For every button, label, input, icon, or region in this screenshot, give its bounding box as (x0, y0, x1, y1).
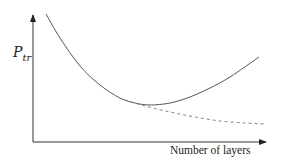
y-axis-label: Ptr (13, 44, 31, 63)
x-axis-label: Number of layers (170, 144, 250, 156)
y-axis-label-main: P (13, 44, 22, 60)
chart-canvas (0, 0, 281, 164)
dashed-curve (125, 100, 265, 124)
solid-curve (46, 14, 259, 105)
y-axis-label-sub: tr (22, 52, 31, 63)
